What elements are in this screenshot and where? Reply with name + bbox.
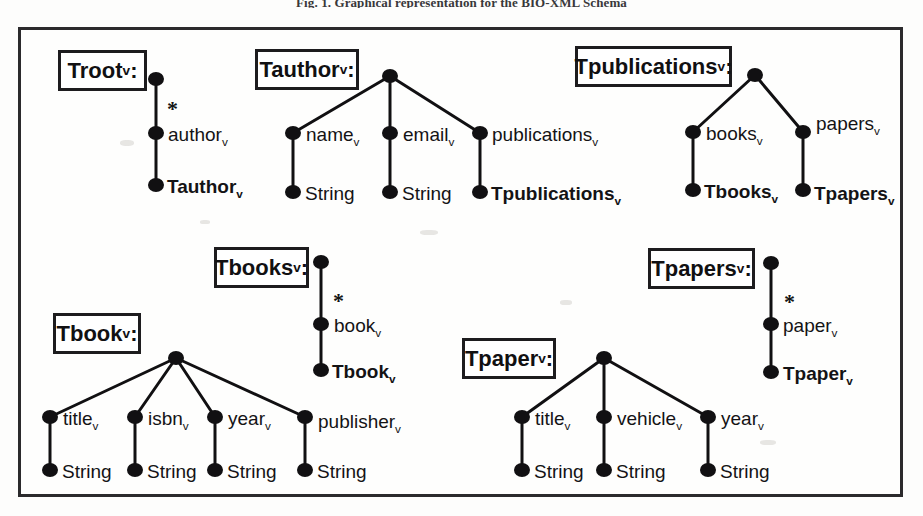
edge-label-publisher-text: publisher: [318, 411, 395, 432]
edge-label-papers: papersv: [816, 114, 880, 137]
typebox-tpublications-label: Tpublications: [575, 54, 718, 80]
edge-label-title-book-text: title: [63, 408, 93, 429]
edge-label-year-paper-text: year: [721, 408, 758, 429]
edge-label-title-paper-text: title: [535, 408, 565, 429]
edge-label-papers-text: papers: [816, 113, 874, 134]
typebox-tpublications-sub: v: [718, 59, 726, 74]
edge-label-vehicle-sub: v: [676, 419, 682, 432]
leaf-label-string-vehicle: String: [616, 462, 666, 481]
scan-speck: [560, 300, 572, 305]
leaf-label-tbook-sub: v: [389, 372, 396, 385]
edge-label-title-book-sub: v: [93, 419, 99, 432]
leaf-label-tpaper: Tpaperv: [783, 364, 853, 387]
edge-label-isbn: isbnv: [148, 409, 189, 432]
multiplicity-star-author: *: [167, 98, 178, 120]
edge-label-author-sub: v: [222, 135, 228, 148]
typebox-tbooks-label: Tbooks: [215, 255, 293, 281]
leaf-label-string-isbn-text: String: [147, 461, 197, 482]
leaf-label-string-year-paper: String: [720, 462, 770, 481]
edge-label-email: emailv: [403, 125, 454, 148]
edge-label-title-paper: titlev: [535, 409, 570, 432]
leaf-label-tbooks: Tbooksv: [704, 182, 778, 205]
leaf-label-string-title-book: String: [62, 462, 112, 481]
scan-speck: [120, 140, 134, 146]
edge-label-year-book-text: year: [228, 408, 265, 429]
edge-label-book: bookv: [334, 316, 381, 339]
edge-label-vehicle: vehiclev: [617, 409, 682, 432]
typebox-troot[interactable]: Trootv:: [58, 50, 147, 91]
leaf-label-tpublications-text: Tpublications: [491, 183, 615, 204]
leaf-label-tauthor-text: Tauthor: [167, 176, 236, 197]
typebox-tbooks-colon: :: [301, 255, 308, 281]
typebox-tpaper-label: Tpaper: [465, 346, 538, 372]
scan-speck: [200, 220, 210, 224]
leaf-label-string-year-paper-text: String: [720, 461, 770, 482]
edge-label-email-text: email: [403, 124, 448, 145]
edge-label-year-paper: yearv: [721, 409, 764, 432]
edge-label-year-paper-sub: v: [758, 419, 764, 432]
edge-label-isbn-text: isbn: [148, 408, 183, 429]
edge-label-year-book-sub: v: [265, 419, 271, 432]
leaf-label-string-name-text: String: [305, 183, 355, 204]
edge-label-papers-sub: v: [874, 124, 880, 137]
leaf-label-tpaper-text: Tpaper: [783, 363, 846, 384]
edge-label-publications-text: publications: [492, 124, 592, 145]
typebox-tbook-colon: :: [130, 321, 137, 347]
scan-speck: [760, 440, 776, 445]
edge-label-books: booksv: [706, 124, 763, 147]
leaf-label-tpublications: Tpublicationsv: [491, 184, 621, 207]
edge-label-email-sub: v: [448, 135, 454, 148]
leaf-label-tpapers-sub: v: [888, 194, 895, 207]
edge-label-name: namev: [306, 125, 359, 148]
typebox-tauthor[interactable]: Tauthorv:: [255, 49, 359, 90]
leaf-label-tbooks-text: Tbooks: [704, 181, 772, 202]
leaf-label-string-email-text: String: [402, 183, 452, 204]
leaf-label-tauthor: Tauthorv: [167, 177, 243, 200]
leaf-label-string-publisher: String: [317, 462, 367, 481]
leaf-label-string-year-book: String: [227, 462, 277, 481]
edge-label-year-book: yearv: [228, 409, 271, 432]
figure-root: Fig. 1. Graphical representation for the…: [0, 0, 923, 516]
multiplicity-star-paper: *: [784, 291, 795, 313]
leaf-label-string-title-paper-text: String: [534, 461, 584, 482]
typebox-tbook[interactable]: Tbookv:: [53, 313, 141, 354]
leaf-label-tbook-text: Tbook: [332, 361, 389, 382]
leaf-label-tbooks-sub: v: [772, 192, 779, 205]
leaf-label-tpublications-sub: v: [615, 194, 622, 207]
edge-label-books-sub: v: [757, 134, 763, 147]
typebox-tpapers-sub: v: [737, 261, 745, 276]
edge-label-vehicle-text: vehicle: [617, 408, 676, 429]
edge-label-title-paper-sub: v: [565, 419, 571, 432]
typebox-tbook-label: Tbook: [57, 321, 123, 347]
typebox-tpapers-colon: :: [744, 256, 751, 282]
edge-label-paper-text: paper: [783, 315, 832, 336]
typebox-tpaper-sub: v: [538, 351, 546, 366]
leaf-label-string-title-book-text: String: [62, 461, 112, 482]
leaf-label-tpapers-text: Tpapers: [814, 183, 888, 204]
leaf-label-tpapers: Tpapersv: [814, 184, 894, 207]
typebox-tpublications[interactable]: Tpublicationsv:: [575, 46, 732, 87]
leaf-label-string-vehicle-text: String: [616, 461, 666, 482]
scan-speck: [420, 230, 438, 235]
multiplicity-star-book: *: [333, 290, 344, 312]
leaf-label-string-name: String: [305, 184, 355, 203]
leaf-label-tauthor-sub: v: [236, 187, 243, 200]
edge-label-book-sub: v: [375, 326, 381, 339]
typebox-tpaper-colon: :: [546, 346, 553, 372]
leaf-label-tpaper-sub: v: [846, 374, 853, 387]
typebox-tauthor-sub: v: [340, 62, 348, 77]
edge-label-publications-sub: v: [592, 135, 598, 148]
edge-label-author-text: author: [168, 124, 222, 145]
typebox-tbooks[interactable]: Tbooksv:: [214, 247, 309, 288]
typebox-tbooks-sub: v: [293, 260, 301, 275]
edge-label-publications: publicationsv: [492, 125, 598, 148]
typebox-tpaper[interactable]: Tpaperv:: [462, 338, 556, 379]
edge-label-paper: paperv: [783, 316, 838, 339]
edge-label-name-sub: v: [354, 135, 360, 148]
leaf-label-string-year-book-text: String: [227, 461, 277, 482]
typebox-tauthor-label: Tauthor: [259, 57, 339, 83]
typebox-tpapers[interactable]: Tpapersv:: [648, 248, 755, 289]
typebox-troot-label: Troot: [68, 58, 123, 84]
figure-caption: Fig. 1. Graphical representation for the…: [0, 0, 923, 8]
typebox-tpapers-label: Tpapers: [651, 256, 737, 282]
